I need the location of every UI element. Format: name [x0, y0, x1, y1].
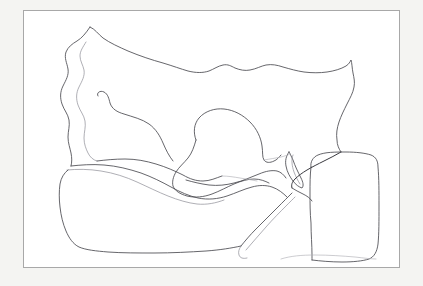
curl-hook: [97, 91, 173, 161]
tapered-wedge: [241, 193, 292, 246]
drawing-canvas: Contour Line Drawing abstract outlined r…: [0, 0, 423, 286]
right-panel: [311, 152, 379, 262]
sliver-claw: [286, 152, 303, 188]
upper-massif-outline: [61, 27, 90, 166]
wedge-tail: [239, 246, 247, 258]
contour-drawing: [0, 0, 423, 286]
central-blob: [194, 109, 281, 163]
right-panel-left-edge: [310, 167, 312, 260]
pinch-node-lower: [292, 188, 312, 201]
baseline-wisp: [281, 255, 376, 259]
left-inner-contour: [77, 42, 97, 161]
lower-left-block: [59, 170, 241, 253]
central-blob-lower: [173, 140, 269, 197]
mid-band-b: [71, 165, 287, 199]
upper-massif-ridge: [90, 27, 354, 152]
interior-sweep-upper: [97, 159, 222, 181]
tapered-wedge-inner: [246, 197, 295, 250]
